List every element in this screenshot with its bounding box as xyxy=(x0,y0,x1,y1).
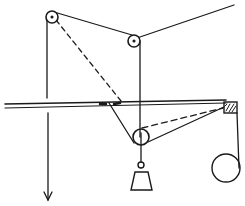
dashed-line-top-left xyxy=(56,20,121,101)
rope-middle-to-anchor xyxy=(137,5,234,38)
rope-top-left-to-middle xyxy=(54,12,132,35)
weight-icon xyxy=(131,172,152,190)
corner-block-hatch xyxy=(225,104,236,112)
middle-pulley-axle xyxy=(133,40,135,42)
crossing-mark-right xyxy=(114,103,120,104)
dashed-line-lower xyxy=(142,108,223,128)
hook-ring-icon xyxy=(138,162,144,168)
top-left-pulley-axle xyxy=(51,16,53,18)
roller-icon xyxy=(212,154,240,182)
pulley-diagram xyxy=(0,0,245,206)
diagram-canvas xyxy=(0,0,245,206)
rope-crossing-to-lower-pulley xyxy=(109,103,134,143)
rope-lower-pulley-to-corner xyxy=(148,107,224,142)
